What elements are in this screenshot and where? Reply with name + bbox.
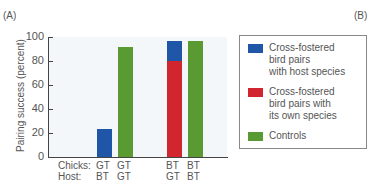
y-tick-label: 80 (14, 55, 44, 66)
y-axis (48, 37, 49, 158)
category-chicks-label: GT (117, 160, 131, 171)
x-axis (48, 157, 228, 158)
category-chicks-label: BT (187, 160, 200, 171)
panel-label-a: (A) (3, 10, 16, 21)
legend-text: Cross-fosteredbird pairswith host specie… (269, 42, 369, 78)
category-host-label: GT (117, 171, 131, 182)
bar-segment (118, 47, 133, 157)
y-tick-label: 60 (14, 79, 44, 90)
y-tick-label: 100 (14, 31, 44, 42)
category-host-label: GT (166, 171, 180, 182)
legend: Cross-fosteredbird pairswith host specie… (239, 35, 367, 149)
y-tick-label: 0 (14, 151, 44, 162)
legend-swatch-green (248, 132, 263, 141)
bar-segment (167, 61, 182, 157)
category-chicks-label: GT (96, 160, 110, 171)
legend-text: Controls (269, 130, 369, 142)
category-host-label: BT (187, 171, 200, 182)
panel-label-b: (B) (354, 10, 367, 21)
y-tick-label: 20 (14, 127, 44, 138)
bar-segment (97, 129, 112, 157)
category-chicks-label: BT (166, 160, 179, 171)
chicks-row-label: Chicks: (58, 160, 91, 171)
category-host-label: BT (96, 171, 109, 182)
bar-segment (188, 41, 203, 157)
y-tick-label: 40 (14, 103, 44, 114)
host-row-label: Host: (58, 171, 81, 182)
legend-swatch-red (248, 88, 263, 97)
legend-swatch-blue (248, 44, 263, 53)
legend-text: Cross-fosteredbird pairs withits own spe… (269, 86, 369, 122)
bar-segment (167, 41, 182, 61)
